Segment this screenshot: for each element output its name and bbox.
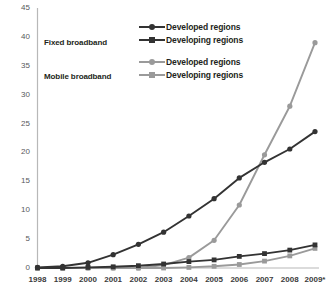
data-point-fixed-broadband-developed-regions-2001 — [111, 252, 116, 257]
legend-key-square-icon — [138, 69, 166, 80]
data-point-fixed-broadband-developed-regions-2004 — [186, 213, 191, 218]
data-point-fixed-broadband-developing-regions-2002 — [136, 263, 141, 268]
legend-item-2: Developed regions — [138, 55, 243, 68]
data-point-mobile-broadband-developing-regions-2006 — [237, 262, 242, 267]
data-point-fixed-broadband-developed-regions-2002 — [136, 242, 141, 247]
data-point-fixed-broadband-developed-regions-2008 — [287, 146, 292, 151]
legend-key-circle-icon — [138, 56, 166, 67]
data-point-fixed-broadband-developing-regions-2008 — [287, 248, 292, 253]
data-point-fixed-broadband-developing-regions-2000 — [86, 265, 91, 270]
x-axis-tick-2009: 2009* — [300, 276, 330, 284]
data-point-mobile-broadband-developed-regions-2006 — [237, 202, 242, 207]
data-point-fixed-broadband-developing-regions-1998 — [35, 266, 40, 271]
data-point-fixed-broadband-developing-regions-2005 — [212, 258, 217, 263]
data-point-mobile-broadband-developed-regions-2007 — [262, 152, 267, 157]
data-point-fixed-broadband-developing-regions-2004 — [187, 259, 192, 264]
data-point-fixed-broadband-developed-regions-2005 — [212, 196, 217, 201]
data-point-fixed-broadband-developed-regions-2007 — [262, 160, 267, 165]
data-point-mobile-broadband-developing-regions-2004 — [187, 265, 192, 270]
legend-item-1: Developing regions — [138, 33, 243, 46]
data-point-fixed-broadband-developing-regions-2006 — [237, 254, 242, 259]
legend-label-3: Developing regions — [166, 70, 243, 80]
data-point-fixed-broadband-developed-regions-2000 — [85, 260, 90, 265]
legend-key-square-icon — [138, 34, 166, 45]
data-point-fixed-broadband-developed-regions-2006 — [237, 175, 242, 180]
data-point-fixed-broadband-developing-regions-2001 — [111, 264, 116, 269]
legend-label-2: Developed regions — [166, 57, 240, 67]
data-point-fixed-broadband-developing-regions-2009 — [313, 243, 318, 248]
series-line-mobile-broadband-developing-regions — [38, 248, 316, 268]
data-point-mobile-broadband-developing-regions-2008 — [287, 254, 292, 259]
data-point-fixed-broadband-developing-regions-2003 — [161, 262, 166, 267]
data-point-mobile-broadband-developed-regions-2008 — [287, 104, 292, 109]
legend-item-0: Developed regions — [138, 20, 243, 33]
legend-label-1: Developing regions — [166, 35, 243, 45]
group-label-fixed-broadband: Fixed broadband — [44, 38, 107, 47]
data-point-mobile-broadband-developed-regions-2009 — [312, 40, 317, 45]
data-point-fixed-broadband-developing-regions-2007 — [262, 251, 267, 256]
legend-key-circle-icon — [138, 21, 166, 32]
data-point-fixed-broadband-developed-regions-2003 — [161, 230, 166, 235]
legend-item-3: Developing regions — [138, 68, 243, 81]
data-point-mobile-broadband-developed-regions-2005 — [212, 238, 217, 243]
data-point-fixed-broadband-developing-regions-1999 — [60, 266, 65, 271]
legend-label-0: Developed regions — [166, 22, 240, 32]
chart-legend: Developed regionsDeveloping regionsDevel… — [138, 20, 243, 81]
group-label-mobile-broadband: Mobile broadband — [44, 72, 111, 81]
series-line-fixed-broadband-developed-regions — [38, 132, 316, 268]
data-point-mobile-broadband-developing-regions-2005 — [212, 264, 217, 269]
data-point-fixed-broadband-developed-regions-2009 — [312, 129, 317, 134]
data-point-mobile-broadband-developing-regions-2007 — [262, 259, 267, 264]
